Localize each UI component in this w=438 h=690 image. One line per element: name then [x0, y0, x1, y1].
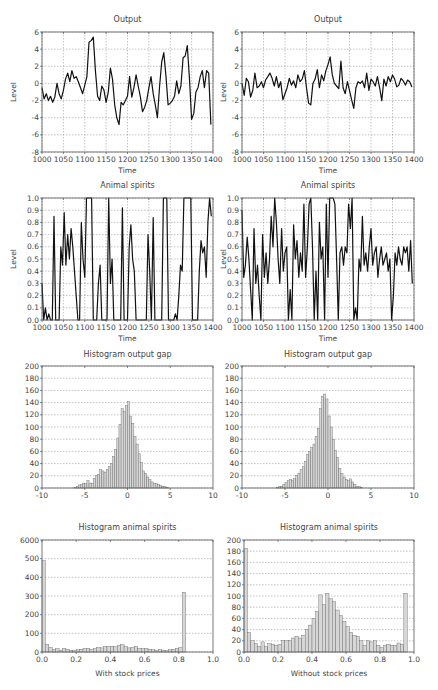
y-tick-label: 2: [234, 62, 239, 71]
y-tick-label: 0.3: [27, 279, 39, 288]
data-series-line: [42, 37, 211, 125]
figure-canvas: Output-8-6-4-202461000105011001150120012…: [0, 0, 438, 690]
x-axis-label: Time: [117, 166, 137, 175]
histogram-bar: [296, 476, 298, 488]
x-axis-label: Time: [117, 334, 137, 343]
y-axis-label: Level: [9, 249, 18, 269]
x-tick-label: 1300: [361, 155, 380, 164]
histogram-bar: [125, 406, 127, 488]
y-tick-label: 160: [25, 386, 40, 395]
histogram-bar: [380, 648, 383, 652]
x-tick-label: 0: [326, 491, 331, 500]
x-tick-label: 1300: [161, 323, 180, 332]
y-tick-label: 80: [29, 435, 39, 444]
histogram-bar: [106, 470, 108, 488]
histogram-bar: [136, 444, 138, 488]
histogram-bar: [148, 649, 151, 652]
histogram-bar: [328, 416, 330, 488]
chart-title: Histogram animal spirits: [79, 523, 177, 532]
histogram-output-gap-without-chart: Histogram output gap02040608010012014016…: [225, 350, 419, 500]
y-tick-label: 200: [25, 362, 40, 371]
histogram-bar: [302, 635, 305, 652]
y-tick-label: 40: [231, 625, 241, 634]
x-tick-label: 0.6: [139, 655, 151, 664]
animal-spirits-with-stock-prices-chart: Animal spirits0.00.10.20.30.40.50.60.70.…: [9, 181, 223, 343]
x-tick-label: 1200: [118, 323, 137, 332]
y-tick-label: 180: [25, 374, 40, 383]
histogram-bar: [302, 467, 304, 488]
histogram-bar: [315, 612, 318, 652]
histogram-bar: [350, 479, 352, 488]
x-tick-label: 5: [168, 491, 173, 500]
histogram-bar: [87, 481, 89, 488]
histogram-bar: [45, 645, 48, 652]
histogram-bar: [264, 646, 267, 652]
output-without-stock-prices-chart: Output-8-6-4-202461000105011001150120012…: [219, 15, 424, 175]
histogram-bar: [104, 646, 107, 652]
histogram-bar: [366, 641, 369, 652]
histogram-bar: [142, 471, 144, 488]
histogram-bar: [128, 648, 131, 652]
histogram-bar: [288, 641, 291, 652]
x-axis-label: Time: [318, 166, 338, 175]
histogram-bar: [66, 649, 69, 652]
y-tick-label: 100: [225, 423, 240, 432]
y-tick-label: 20: [29, 471, 39, 480]
histogram-bar: [175, 648, 178, 652]
y-tick-label: 160: [225, 386, 240, 395]
x-tick-label: 1300: [361, 323, 380, 332]
x-tick-label: 1100: [75, 155, 94, 164]
y-axis-label: Level: [219, 82, 228, 102]
histogram-bar: [42, 561, 45, 652]
x-tick-label: 1.0: [408, 655, 420, 664]
histogram-bar: [100, 470, 102, 488]
histogram-bar: [354, 484, 356, 488]
x-tick-label: 1250: [340, 155, 359, 164]
histogram-bar: [387, 644, 390, 652]
histogram-bar: [339, 468, 341, 488]
x-tick-label: 1300: [161, 155, 180, 164]
x-tick-label: 1400: [404, 323, 423, 332]
y-tick-label: -2: [32, 96, 40, 105]
histogram-bar: [110, 646, 113, 652]
histogram-bar: [179, 647, 182, 652]
x-tick-label: 1000: [32, 155, 51, 164]
histogram-bar: [294, 478, 296, 488]
x-tick-label: 0.8: [173, 655, 185, 664]
x-tick-label: -5: [281, 491, 289, 500]
histogram-bar: [329, 599, 332, 652]
histogram-bar: [107, 647, 110, 652]
x-tick-label: 0: [125, 491, 130, 500]
histogram-bar: [147, 477, 149, 488]
y-tick-label: 400: [25, 573, 40, 582]
y-axis-label: Level: [219, 249, 228, 269]
x-tick-label: 0.0: [36, 655, 48, 664]
histogram-bar: [377, 645, 380, 652]
y-tick-label: 40: [29, 459, 39, 468]
x-tick-label: 1050: [254, 323, 273, 332]
histogram-bar: [353, 635, 356, 652]
y-tick-label: 100: [227, 592, 242, 601]
histogram-bar: [311, 448, 313, 488]
histogram-bar: [363, 645, 366, 652]
histogram-bar: [347, 481, 349, 488]
histogram-bar: [80, 484, 82, 488]
y-tick-label: 140: [225, 398, 240, 407]
histogram-bar: [151, 482, 153, 488]
histogram-bar: [182, 592, 185, 652]
y-tick-label: 4: [34, 45, 39, 54]
histogram-bar: [131, 647, 134, 652]
y-tick-label: -2: [232, 96, 240, 105]
y-tick-label: 100: [25, 629, 40, 638]
chart-title: Histogram output gap: [83, 350, 171, 359]
histogram-bar: [349, 632, 352, 652]
histogram-bar: [119, 425, 121, 488]
y-tick-label: 0.5: [27, 255, 39, 264]
histogram-bar: [95, 476, 97, 488]
histogram-bar: [49, 647, 52, 652]
histogram-bar: [309, 625, 312, 652]
y-tick-label: 60: [231, 614, 241, 623]
y-tick-label: 1.0: [27, 194, 39, 203]
x-tick-label: 1.0: [207, 655, 219, 664]
histogram-bar: [90, 649, 93, 652]
